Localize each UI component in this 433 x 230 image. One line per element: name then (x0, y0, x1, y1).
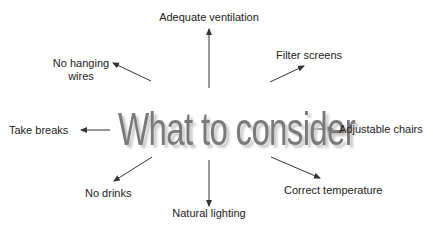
label-take-breaks: Take breaks (9, 124, 68, 137)
central-title: What to consider What to consider (118, 100, 310, 162)
label-no-hanging-wires: No hanging wires (46, 57, 116, 83)
arrow-up-right-icon (270, 66, 304, 82)
label-adjustable-chairs: Adjustable chairs (339, 123, 423, 136)
mind-map-diagram: What to consider What to consider Adequa… (0, 0, 433, 230)
label-no-drinks: No drinks (85, 187, 131, 200)
label-no-hanging-wires-line-1: No hanging (46, 57, 116, 70)
label-correct-temperature: Correct temperature (284, 184, 382, 197)
arrow-up-left-icon (113, 63, 151, 81)
label-adequate-ventilation: Adequate ventilation (150, 11, 268, 24)
label-no-hanging-wires-line-2: wires (46, 70, 116, 83)
central-title-text: What to consider (118, 100, 355, 158)
label-filter-screens: Filter screens (276, 49, 342, 62)
label-natural-lighting: Natural lighting (160, 207, 258, 220)
